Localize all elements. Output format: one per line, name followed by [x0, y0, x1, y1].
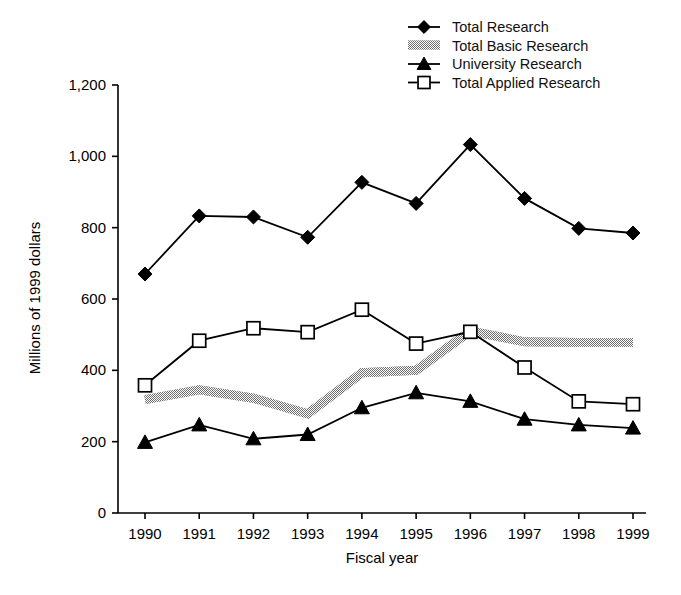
legend-swatch-band-texture: [408, 41, 440, 50]
marker-square: [627, 398, 640, 411]
legend-item-label: University Research: [452, 56, 582, 72]
marker-square: [418, 77, 430, 89]
marker-square: [518, 361, 531, 374]
legend-item: University Research: [408, 56, 582, 72]
y-axis-tick-label: 600: [81, 290, 106, 307]
chart-container: 02004006008001,0001,200 1990199119921993…: [0, 0, 681, 595]
y-axis-tick-label: 400: [81, 361, 106, 378]
y-axis-title: Millions of 1999 dollars: [26, 222, 43, 375]
chart-legend: Total ResearchTotal Basic ResearchUniver…: [408, 19, 600, 91]
legend-item: Total Research: [408, 19, 549, 35]
x-axis-tick-label: 1995: [399, 525, 432, 542]
y-axis-tick-label: 1,000: [68, 147, 106, 164]
legend-item-label: Total Research: [452, 19, 549, 35]
x-axis-title: Fiscal year: [346, 549, 419, 566]
x-axis-tick-label: 1998: [562, 525, 595, 542]
y-axis-tick-label: 200: [81, 433, 106, 450]
marker-square: [410, 337, 423, 350]
plot-area: [118, 80, 646, 515]
y-axis-tick-label: 0: [98, 504, 106, 521]
x-axis-tick-label: 1994: [345, 525, 378, 542]
marker-diamond: [418, 21, 431, 34]
y-axis-tick-label: 1,200: [68, 76, 106, 93]
x-axis-tick-labels: 1990199119921993199419951996199719981999: [128, 525, 649, 542]
y-axis-tick-label: 800: [81, 219, 106, 236]
marker-square: [301, 326, 314, 339]
marker-square: [572, 395, 585, 408]
marker-square: [139, 379, 152, 392]
x-axis-tick-label: 1996: [454, 525, 487, 542]
legend-item-label: Total Applied Research: [452, 75, 600, 91]
x-axis-tick-label: 1997: [508, 525, 541, 542]
x-axis-tick-label: 1992: [237, 525, 270, 542]
marker-square: [355, 303, 368, 316]
marker-square: [464, 325, 477, 338]
marker-square: [193, 334, 206, 347]
line-chart: 02004006008001,0001,200 1990199119921993…: [0, 0, 681, 595]
x-axis-tick-label: 1990: [128, 525, 161, 542]
marker-square: [247, 322, 260, 335]
x-axis-tick-label: 1991: [183, 525, 216, 542]
y-axis-tick-labels: 02004006008001,0001,200: [68, 76, 106, 521]
x-axis-tick-label: 1999: [616, 525, 649, 542]
x-axis-tick-label: 1993: [291, 525, 324, 542]
legend-item: Total Basic Research: [408, 38, 588, 54]
legend-item-label: Total Basic Research: [452, 38, 588, 54]
